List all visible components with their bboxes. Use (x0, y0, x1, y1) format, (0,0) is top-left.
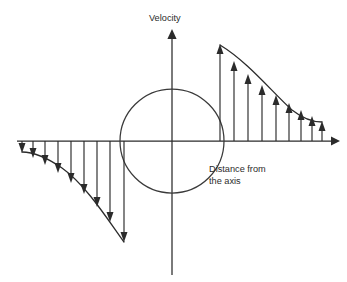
figure-canvas: Velocity Distance from the axis (0, 0, 347, 282)
velocity-vector (30, 141, 37, 158)
vector-group-right (217, 44, 326, 141)
x-axis-label-line2: the axis (209, 176, 241, 186)
velocity-vector (273, 95, 280, 141)
velocity-profile-diagram: Velocity Distance from the axis (0, 0, 347, 282)
velocity-vector (107, 141, 114, 222)
velocity-vector (94, 141, 101, 207)
velocity-vector (259, 85, 266, 141)
velocity-vector (319, 121, 326, 141)
velocity-vector (245, 74, 252, 141)
profile-curve-left (22, 152, 124, 242)
velocity-vector (81, 141, 88, 194)
velocity-vector (42, 141, 49, 165)
x-axis (17, 136, 340, 145)
velocity-vector (231, 61, 238, 141)
vector-group-left (19, 141, 128, 242)
y-axis-arrowhead-icon (167, 29, 176, 39)
velocity-vector (55, 141, 62, 173)
velocity-vector (19, 141, 26, 153)
velocity-vector (121, 141, 128, 242)
profile-curve-right (220, 45, 322, 122)
x-axis-label-line1: Distance from (209, 164, 266, 174)
x-axis-arrowhead-icon (331, 136, 340, 145)
y-axis (167, 29, 176, 275)
y-axis-label: Velocity (149, 13, 181, 23)
